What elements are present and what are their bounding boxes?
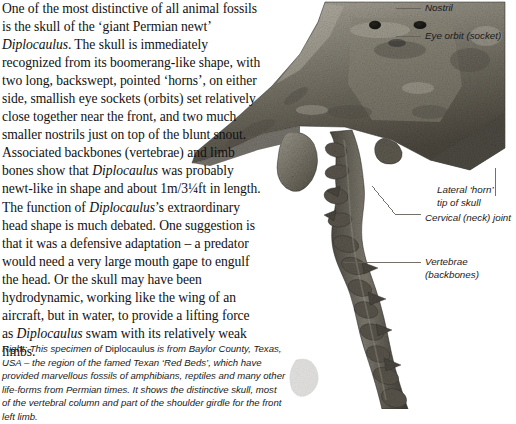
annotation-label-eye-orbit: Eye orbit (socket) [425, 30, 501, 43]
annotation-eye-orbit-line-0: Eye orbit (socket) [425, 30, 501, 43]
annotation-label-nostril: Nostril [425, 2, 453, 15]
annotation-lateral-horn-line-1: tip of skull [437, 197, 494, 210]
annotation-cervical-line-0: Cervical (neck) joint [425, 212, 511, 225]
annotation-nostril-line-0: Nostril [425, 2, 453, 15]
annotation-lateral-horn-line-0: Lateral ‘horn’ [437, 184, 494, 197]
leader-line-cervical [372, 186, 421, 214]
annotation-label-lateral-horn: Lateral ‘horn’ tip of skull [437, 184, 494, 209]
annotation-label-cervical-joint: Cervical (neck) joint [425, 212, 511, 225]
annotation-label-vertebrae: Vertebrae (backbones) [425, 256, 479, 281]
annotation-vertebrae-line-0: Vertebrae [425, 256, 479, 269]
annotation-vertebrae-line-1: (backbones) [425, 269, 479, 282]
